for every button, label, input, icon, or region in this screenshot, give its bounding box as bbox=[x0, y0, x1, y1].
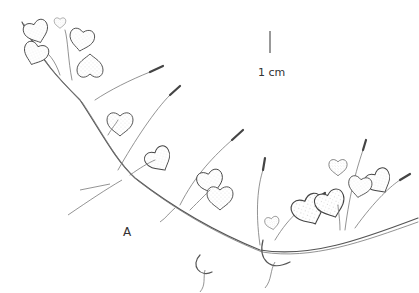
scale-bar-label: 1 cm bbox=[258, 66, 285, 79]
main-stem bbox=[22, 22, 418, 274]
flower-spikes bbox=[95, 66, 410, 245]
botanical-illustration: 1 cm A bbox=[0, 0, 419, 293]
roots bbox=[68, 180, 275, 292]
scale-bar: 1 cm bbox=[258, 31, 285, 79]
panel-label: A bbox=[123, 225, 132, 239]
leaves bbox=[20, 18, 396, 231]
